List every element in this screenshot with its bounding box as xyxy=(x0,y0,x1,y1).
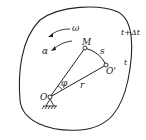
alpha-arrow-icon xyxy=(54,41,72,49)
radius-r-label: r xyxy=(80,81,84,90)
rotation-diagram: ω α M s O' φ r O t+Δt t xyxy=(0,0,146,140)
point-O-marker xyxy=(48,95,52,99)
time-later-label: t+Δt xyxy=(121,29,140,37)
point-M-label: M xyxy=(82,38,91,47)
alpha-label: α xyxy=(42,47,48,56)
line-OOprime xyxy=(50,65,106,97)
arc-s-label: s xyxy=(100,47,105,56)
omega-arrow-icon xyxy=(51,29,70,35)
point-Oprime-label: O' xyxy=(106,67,116,76)
diagram-drawing xyxy=(0,0,146,140)
point-O-label: O xyxy=(40,93,47,102)
angle-phi-label: φ xyxy=(61,79,67,88)
omega-label: ω xyxy=(72,24,79,33)
time-now-label: t xyxy=(124,59,127,67)
